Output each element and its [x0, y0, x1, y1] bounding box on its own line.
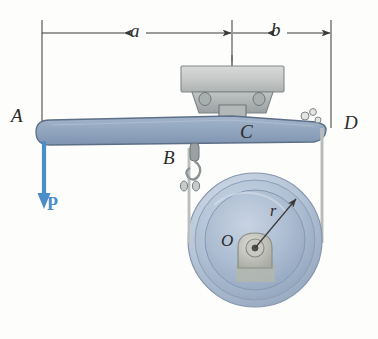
beam — [36, 116, 326, 145]
hook-shank — [190, 143, 199, 161]
figure-canvas: A B C D O r a b P — [0, 0, 378, 339]
cable-link-2 — [310, 109, 317, 116]
label-point-d: D — [344, 113, 358, 132]
label-point-o: O — [221, 232, 233, 249]
bracket-bolt-right — [253, 93, 265, 106]
cable-link-3 — [315, 117, 321, 123]
label-point-c: C — [240, 122, 253, 141]
hook-ring-right — [192, 181, 199, 191]
label-dimension-b: b — [271, 20, 281, 39]
label-radius: r — [270, 203, 276, 219]
hook-ring-left — [180, 181, 187, 191]
bracket-block — [181, 66, 284, 92]
pulley — [188, 173, 322, 307]
label-point-a: A — [11, 106, 23, 125]
label-point-b: B — [163, 148, 175, 167]
cable-link-1 — [301, 112, 309, 120]
label-force-p: P — [47, 195, 58, 213]
diagram-svg — [0, 0, 378, 339]
bracket-bolt-left — [199, 93, 211, 106]
label-dimension-a: a — [130, 21, 140, 40]
beam-body — [36, 116, 326, 145]
